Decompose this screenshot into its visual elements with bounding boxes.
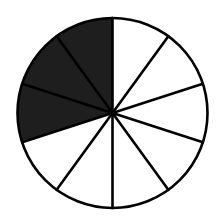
fraction-circle-diagram [0, 0, 218, 218]
diagram-container [0, 0, 218, 218]
